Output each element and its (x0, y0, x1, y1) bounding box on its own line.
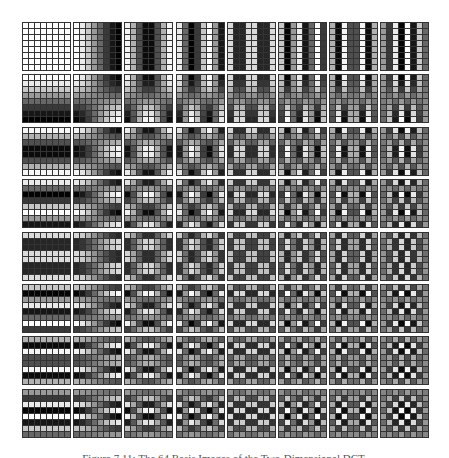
basis-image-7-0 (22, 389, 71, 438)
basis-image-5-3 (176, 284, 225, 333)
basis-image-5-2 (124, 284, 173, 333)
basis-image-4-6 (329, 232, 378, 281)
basis-image-2-3 (176, 127, 225, 176)
basis-image-7-6 (329, 389, 378, 438)
basis-image-3-5 (278, 179, 327, 228)
basis-image-6-6 (329, 336, 378, 385)
basis-image-4-7 (380, 232, 429, 281)
basis-image-5-7 (380, 284, 429, 333)
basis-image-1-3 (176, 74, 225, 123)
basis-image-3-2 (124, 179, 173, 228)
basis-image-0-7 (380, 22, 429, 71)
basis-image-6-7 (380, 336, 429, 385)
basis-image-2-4 (227, 127, 276, 176)
basis-image-4-5 (278, 232, 327, 281)
dct-basis-grid (22, 22, 429, 442)
basis-image-4-3 (176, 232, 225, 281)
basis-image-1-6 (329, 74, 378, 123)
basis-image-6-3 (176, 336, 225, 385)
basis-image-5-5 (278, 284, 327, 333)
basis-image-1-1 (73, 74, 122, 123)
basis-image-3-6 (329, 179, 378, 228)
basis-image-7-7 (380, 389, 429, 438)
basis-image-5-6 (329, 284, 378, 333)
basis-image-3-0 (22, 179, 71, 228)
basis-image-0-2 (124, 22, 173, 71)
basis-image-1-5 (278, 74, 327, 123)
basis-image-5-0 (22, 284, 71, 333)
basis-image-5-1 (73, 284, 122, 333)
basis-image-0-1 (73, 22, 122, 71)
basis-image-7-4 (227, 389, 276, 438)
basis-image-6-2 (124, 336, 173, 385)
basis-image-7-5 (278, 389, 327, 438)
basis-image-4-1 (73, 232, 122, 281)
basis-image-0-3 (176, 22, 225, 71)
basis-image-3-4 (227, 179, 276, 228)
basis-image-0-0 (22, 22, 71, 71)
basis-image-4-0 (22, 232, 71, 281)
basis-image-7-1 (73, 389, 122, 438)
basis-image-7-3 (176, 389, 225, 438)
basis-image-3-1 (73, 179, 122, 228)
basis-image-1-4 (227, 74, 276, 123)
basis-image-6-4 (227, 336, 276, 385)
basis-image-2-1 (73, 127, 122, 176)
basis-image-4-2 (124, 232, 173, 281)
basis-image-2-2 (124, 127, 173, 176)
basis-image-2-7 (380, 127, 429, 176)
basis-image-6-5 (278, 336, 327, 385)
basis-image-0-6 (329, 22, 378, 71)
basis-image-7-2 (124, 389, 173, 438)
basis-image-4-4 (227, 232, 276, 281)
basis-image-3-3 (176, 179, 225, 228)
basis-image-6-0 (22, 336, 71, 385)
basis-image-1-0 (22, 74, 71, 123)
basis-image-1-2 (124, 74, 173, 123)
basis-image-2-5 (278, 127, 327, 176)
basis-image-5-4 (227, 284, 276, 333)
basis-image-2-0 (22, 127, 71, 176)
basis-image-3-7 (380, 179, 429, 228)
basis-image-0-4 (227, 22, 276, 71)
basis-image-0-5 (278, 22, 327, 71)
basis-image-1-7 (380, 74, 429, 123)
basis-image-6-1 (73, 336, 122, 385)
basis-image-2-6 (329, 127, 378, 176)
figure-caption: Figure 7.11: The 64 Basis Images of the … (0, 452, 449, 458)
